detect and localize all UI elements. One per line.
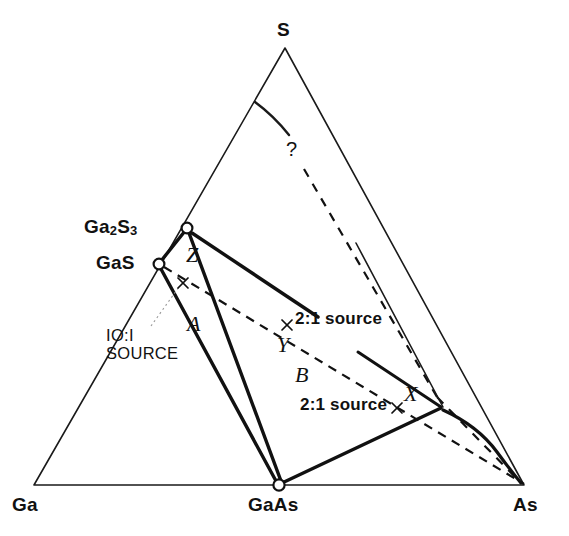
node-marker-gas bbox=[154, 259, 165, 270]
region-label-b: B bbox=[295, 364, 308, 386]
x-marker-y bbox=[282, 320, 292, 330]
tieline-gaas-node bbox=[282, 408, 441, 483]
source-label-10-1-line2: SOURCE bbox=[106, 344, 178, 362]
compound-label-gaas: GaAs bbox=[248, 495, 298, 514]
corner-label-ga: Ga bbox=[12, 495, 38, 514]
source-label-2-1-upper: 2:1 source bbox=[295, 310, 382, 327]
source-label-2-1-lower: 2:1 source bbox=[300, 396, 387, 413]
diagram-canvas bbox=[0, 0, 569, 536]
leader-line-10-1-source bbox=[151, 287, 179, 326]
unknown-boundary-stub bbox=[255, 102, 289, 135]
tieline-ga2s3-gaas bbox=[189, 233, 281, 481]
unknown-boundary-question-label: ? bbox=[286, 139, 297, 159]
tieline-ga2s3-gas bbox=[161, 231, 185, 261]
corner-label-as: As bbox=[513, 495, 538, 514]
compound-label-gas: GaS bbox=[96, 253, 135, 272]
tieline-ga2s3-liquidus bbox=[192, 233, 318, 317]
node-marker-gaas bbox=[273, 479, 284, 490]
node-marker-ga2s3 bbox=[182, 223, 193, 234]
point-label-x: X bbox=[404, 383, 417, 405]
source-label-10-1-line1: IO:I bbox=[106, 326, 178, 344]
x-marker-x bbox=[392, 403, 402, 413]
compound-label-ga2s3: Ga2S3 bbox=[84, 217, 138, 237]
unknown-boundary-dashed-lower bbox=[437, 397, 521, 483]
corner-label-s: S bbox=[277, 20, 290, 39]
source-label-10-1: IO:I SOURCE bbox=[106, 326, 178, 363]
point-label-y: Y bbox=[277, 334, 289, 356]
ternary-phase-diagram: S Ga As Ga2S3 GaS GaAs Z A Y B X ? IO:I … bbox=[0, 0, 569, 536]
point-label-z: Z bbox=[186, 244, 198, 266]
region-label-a: A bbox=[187, 313, 200, 335]
